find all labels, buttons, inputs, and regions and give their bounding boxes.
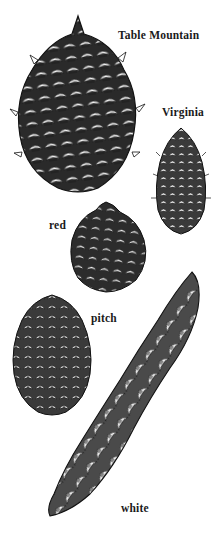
label-table-mountain: Table Mountain: [118, 29, 199, 41]
pine-cone-illustration: Table Mountain Virginia red pitch white: [0, 0, 221, 534]
label-pitch: pitch: [91, 312, 117, 324]
white-cone-drawing: [42, 268, 212, 518]
virginia-cone-drawing: [150, 126, 212, 236]
label-red: red: [49, 219, 66, 231]
label-white: white: [121, 502, 149, 514]
label-virginia: Virginia: [162, 106, 204, 118]
